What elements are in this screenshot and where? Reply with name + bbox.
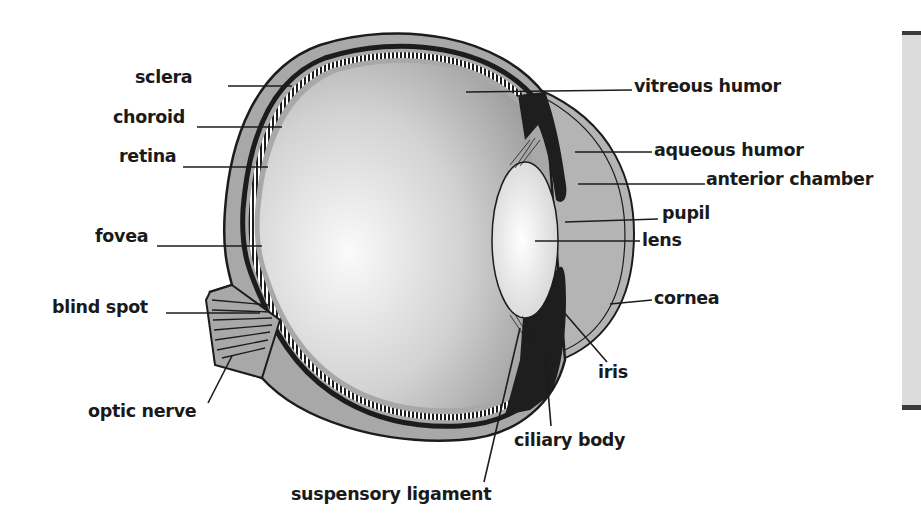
lens-shape [492,162,558,318]
side-panel-edge [902,31,921,410]
label-choroid: choroid [113,107,185,127]
label-vitreous-humor: vitreous humor [634,76,781,96]
side-panel-top-bar [902,31,921,35]
label-lens: lens [642,230,682,250]
label-sclera: sclera [135,67,192,87]
label-optic-nerve: optic nerve [88,401,196,421]
label-ciliary-body: ciliary body [514,430,625,450]
label-pupil: pupil [662,203,710,223]
label-anterior-chamber: anterior chamber [706,169,873,189]
label-suspensory-ligament: suspensory ligament [291,484,491,504]
side-panel-bottom-bar [902,405,921,410]
label-aqueous-humor: aqueous humor [654,140,804,160]
label-iris: iris [598,362,628,382]
eye-anatomy-diagram: sclera choroid retina fovea blind spot o… [0,0,921,519]
label-retina: retina [119,146,176,166]
label-cornea: cornea [654,288,719,308]
label-blind-spot: blind spot [52,297,148,317]
label-fovea: fovea [95,226,148,246]
